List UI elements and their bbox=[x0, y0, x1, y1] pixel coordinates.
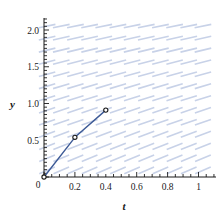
data-point-marker bbox=[104, 108, 108, 112]
x-tick-label: 0.6 bbox=[131, 182, 143, 192]
x-tick-label: 0.8 bbox=[162, 182, 174, 192]
data-point-marker bbox=[73, 135, 77, 139]
y-tick-label: 2.0 bbox=[27, 26, 39, 36]
x-tick-label: 0.4 bbox=[100, 182, 112, 192]
y-tick-label: 1.5 bbox=[27, 62, 39, 72]
x-axis-title: t bbox=[122, 200, 126, 212]
x-tick-label: 0.2 bbox=[69, 182, 81, 192]
data-point-marker bbox=[42, 175, 46, 179]
y-axis-tick-labels: 0.51.01.52.0 bbox=[27, 26, 39, 146]
x-tick-label: 1 bbox=[196, 182, 201, 192]
y-axis-title: y bbox=[8, 98, 15, 110]
y-tick-label: 0.5 bbox=[27, 136, 39, 146]
x-axis-tick-labels: 0.20.40.60.81 bbox=[69, 182, 201, 192]
y-tick-label: 1.0 bbox=[27, 99, 39, 109]
origin-tick-label: 0 bbox=[36, 180, 41, 190]
chart-canvas: 0.20.40.60.81 0.51.01.52.0 0 y t bbox=[0, 0, 219, 218]
slope-field-plot: 0.20.40.60.81 0.51.01.52.0 0 y t bbox=[0, 0, 219, 218]
